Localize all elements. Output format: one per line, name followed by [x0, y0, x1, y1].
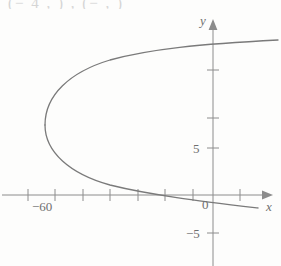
x-axis-label: x [266, 200, 272, 213]
origin-label: 0 [202, 198, 209, 211]
y-tick-label-minus5: −5 [186, 227, 200, 240]
curve-upper-branch [45, 40, 278, 125]
plot-canvas [0, 0, 281, 266]
y-axis-arrow-icon [209, 19, 218, 30]
y-axis-label: y [200, 14, 206, 27]
y-tick-label-5: 5 [193, 142, 200, 155]
x-tick-label-minus60: −60 [32, 200, 52, 213]
curve-lower-branch [45, 125, 258, 208]
parabola-figure: (− 4 , ) , (− , ) [0, 0, 281, 266]
